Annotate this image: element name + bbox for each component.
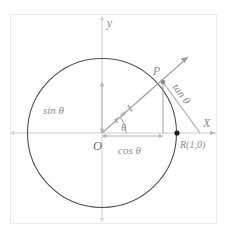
theta-label: θ	[121, 122, 126, 133]
y-axis-label: y	[106, 17, 113, 30]
point-R-marker	[174, 130, 179, 135]
unit-circle-svg: y X O P R(1,0) sin θ cos θ tan θ r = 1 θ	[0, 0, 232, 237]
point-P-marker	[161, 80, 166, 85]
origin-label: O	[93, 139, 102, 153]
unit-circle-figure: y X O P R(1,0) sin θ cos θ tan θ r = 1 θ	[0, 0, 232, 237]
point-R-label: R(1,0)	[179, 139, 206, 151]
sin-label: sin θ	[43, 104, 65, 116]
cos-label: cos θ	[118, 144, 141, 156]
x-axis-label: X	[202, 116, 211, 130]
point-P-label: P	[152, 65, 160, 77]
